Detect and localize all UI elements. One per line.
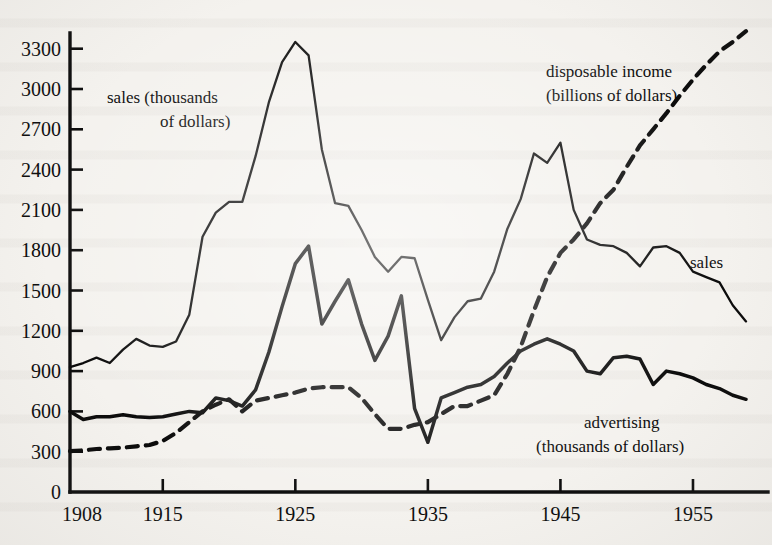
y-tick-label: 2700 [21,118,61,140]
y-tick-label: 1200 [21,320,61,342]
y-tick-label: 600 [31,400,61,422]
y-tick-label: 900 [31,360,61,382]
x-tick-label: 1908 [62,503,102,525]
y-tick-label: 300 [31,441,61,463]
annotation-sales-right: sales [690,253,723,272]
y-tick-label: 2400 [21,159,61,181]
x-tick-label: 1915 [143,503,183,525]
annotation-sales-main-line1: sales (thousands [107,88,218,107]
x-tick-label: 1955 [673,503,713,525]
y-tick-label: 3300 [21,38,61,60]
annotation-advertising-line2: (thousands of dollars) [536,437,684,456]
x-tick-group: 190819151925193519451955 [62,479,713,525]
y-tick-label: 1500 [21,280,61,302]
y-tick-label: 0 [51,481,61,503]
annotation-advertising-line1: advertising [584,413,660,432]
y-tick-label: 1800 [21,239,61,261]
y-tick-group: 0300600900120015001800210024002700300033… [21,38,83,503]
figure-page: 0300600900120015001800210024002700300033… [0,0,772,545]
y-tick-label: 2100 [21,199,61,221]
x-tick-label: 1925 [275,503,315,525]
annotation-sales-main-line2: of dollars) [160,112,230,131]
y-tick-label: 3000 [21,78,61,100]
x-tick-label: 1945 [540,503,580,525]
line-chart: 0300600900120015001800210024002700300033… [0,0,772,545]
annotation-disposable-income-line1: disposable income [546,62,672,81]
annotation-disposable-income-line2: (billions of dollars) [546,86,677,105]
x-tick-label: 1935 [408,503,448,525]
